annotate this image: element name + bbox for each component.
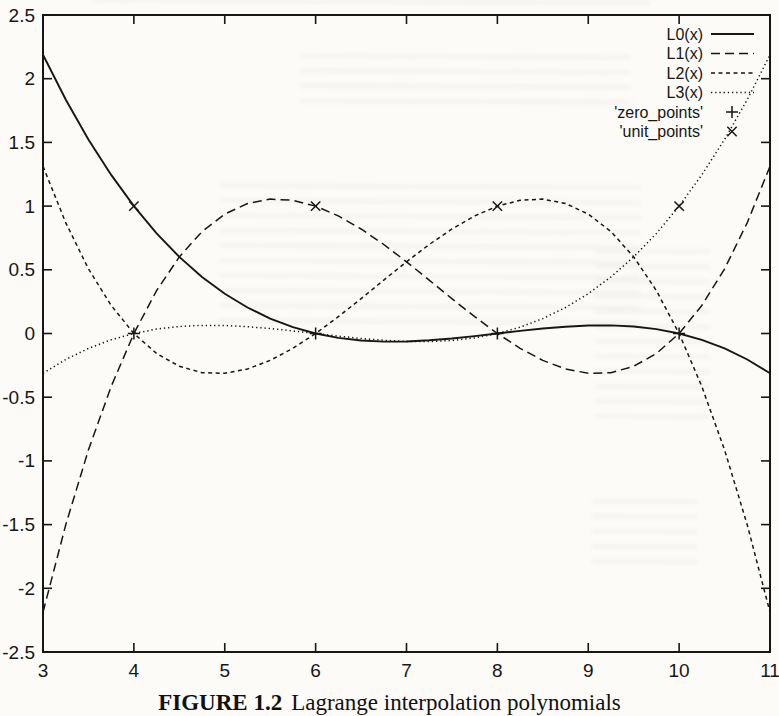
figure-caption-number: FIGURE 1.2 bbox=[158, 690, 282, 715]
curve-l2 bbox=[43, 166, 770, 612]
legend-item: L2(x) bbox=[667, 65, 754, 82]
figure-1-2: 34567891011-2.5-2-1.5-1-0.500.511.522.5L… bbox=[0, 0, 779, 686]
legend-label: 'unit_points' bbox=[620, 123, 704, 141]
zero_points-markers bbox=[128, 328, 685, 340]
unit_points-markers bbox=[129, 201, 684, 210]
figure-caption: FIGURE 1.2Lagrange interpolation polynom… bbox=[0, 690, 779, 716]
y-axis-tick-labels: -2.5-2-1.5-1-0.500.511.522.5 bbox=[2, 5, 35, 663]
x-axis-tick-labels: 34567891011 bbox=[38, 660, 779, 681]
x-tick-label: 7 bbox=[401, 660, 412, 681]
y-tick-label: 2 bbox=[24, 68, 35, 89]
y-tick-label: -0.5 bbox=[2, 387, 35, 408]
y-tick-label: 1 bbox=[24, 196, 35, 217]
legend-item: L3(x) bbox=[667, 84, 754, 101]
y-tick-label: 1.5 bbox=[9, 132, 35, 153]
y-tick-label: -1.5 bbox=[2, 514, 35, 535]
x-tick-label: 6 bbox=[310, 660, 321, 681]
legend-item: L0(x) bbox=[667, 26, 754, 43]
legend-label: L1(x) bbox=[667, 45, 703, 62]
y-tick-label: -1 bbox=[18, 450, 35, 471]
lagrange-basis-polynomials-chart: 34567891011-2.5-2-1.5-1-0.500.511.522.5L… bbox=[0, 0, 779, 686]
legend-label: L2(x) bbox=[667, 65, 703, 82]
y-tick-label: 0.5 bbox=[9, 259, 35, 280]
legend-label: L0(x) bbox=[667, 26, 703, 43]
x-tick-label: 10 bbox=[669, 660, 690, 681]
x-tick-label: 4 bbox=[129, 660, 140, 681]
figure-caption-text: Lagrange interpolation polynomials bbox=[291, 690, 621, 715]
x-tick-label: 8 bbox=[492, 660, 503, 681]
x-tick-label: 9 bbox=[583, 660, 594, 681]
legend-label: L3(x) bbox=[667, 84, 703, 101]
legend-item: 'unit_points' bbox=[620, 123, 737, 141]
y-tick-label: -2.5 bbox=[2, 642, 35, 663]
x-tick-label: 5 bbox=[219, 660, 230, 681]
legend-label: 'zero_points' bbox=[614, 104, 703, 122]
legend-item: 'zero_points' bbox=[614, 104, 738, 122]
curve-l1 bbox=[43, 166, 770, 612]
y-tick-label: 0 bbox=[24, 323, 35, 344]
y-tick-label: 2.5 bbox=[9, 5, 35, 26]
x-tick-label: 3 bbox=[38, 660, 49, 681]
y-tick-label: -2 bbox=[18, 578, 35, 599]
x-tick-label: 11 bbox=[760, 660, 779, 681]
legend-item: L1(x) bbox=[667, 45, 754, 62]
